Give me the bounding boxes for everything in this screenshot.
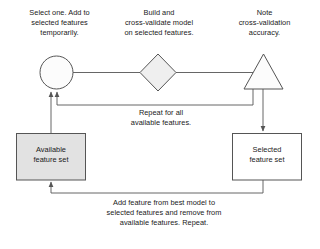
- node-available-box-label: Available feature set: [17, 145, 85, 165]
- node-triangle[interactable]: [244, 54, 283, 89]
- node-diamond[interactable]: [140, 54, 176, 91]
- caption-select-step: Select one. Add to selected features tem…: [2, 8, 117, 38]
- caption-build-step: Build and cross-validate model on select…: [104, 8, 214, 38]
- node-selected-box-label: Selected feature set: [233, 145, 301, 165]
- node-circle[interactable]: [40, 56, 73, 89]
- caption-add-loop: Add feature from best model to selected …: [74, 198, 254, 228]
- caption-repeat-loop: Repeat for all available features.: [106, 108, 216, 128]
- edge-selected-to-available: [51, 180, 263, 193]
- edge-triangle-to-circle: [57, 89, 253, 105]
- caption-note-step: Note cross-validation accuracy.: [212, 8, 317, 38]
- diagram-canvas: Select one. Add to selected features tem…: [0, 0, 320, 249]
